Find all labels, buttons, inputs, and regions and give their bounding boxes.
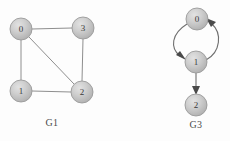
- edge-3-2: [82, 39, 83, 81]
- node-2-label: 2: [80, 87, 85, 97]
- g1-nodes: 0 3 1 2: [10, 17, 94, 103]
- g3-node-2-label: 2: [194, 100, 199, 110]
- graph-g1-caption: G1: [46, 117, 59, 128]
- node-2[interactable]: 2: [71, 81, 93, 103]
- edge-1-to-0-arc: [206, 24, 219, 60]
- edge-0-2: [29, 37, 74, 84]
- g3-nodes: 0 1 2: [185, 8, 208, 116]
- node-3-label: 3: [81, 23, 86, 33]
- g3-node-1-label: 1: [194, 57, 199, 67]
- edge-0-to-1-arc: [174, 24, 187, 56]
- edge-1-2: [32, 91, 71, 92]
- node-1[interactable]: 1: [10, 80, 32, 102]
- graph-g3-caption: G3: [190, 119, 203, 130]
- g3-node-0[interactable]: 0: [186, 8, 208, 30]
- edge-0-to-1-arrowhead: [176, 51, 186, 60]
- node-0-label: 0: [19, 24, 24, 34]
- g3-node-1[interactable]: 1: [185, 51, 207, 73]
- node-1-label: 1: [19, 86, 24, 96]
- node-0[interactable]: 0: [10, 18, 32, 40]
- g1-edges: [21, 28, 83, 92]
- node-3[interactable]: 3: [72, 17, 94, 39]
- graph-g3: 0 1 2: [174, 8, 219, 116]
- figure-canvas: 0 3 1 2: [0, 0, 230, 141]
- edge-0-3: [32, 28, 72, 29]
- g3-node-0-label: 0: [195, 14, 200, 24]
- g3-node-2[interactable]: 2: [185, 94, 207, 116]
- graph-g1: 0 3 1 2: [10, 17, 94, 103]
